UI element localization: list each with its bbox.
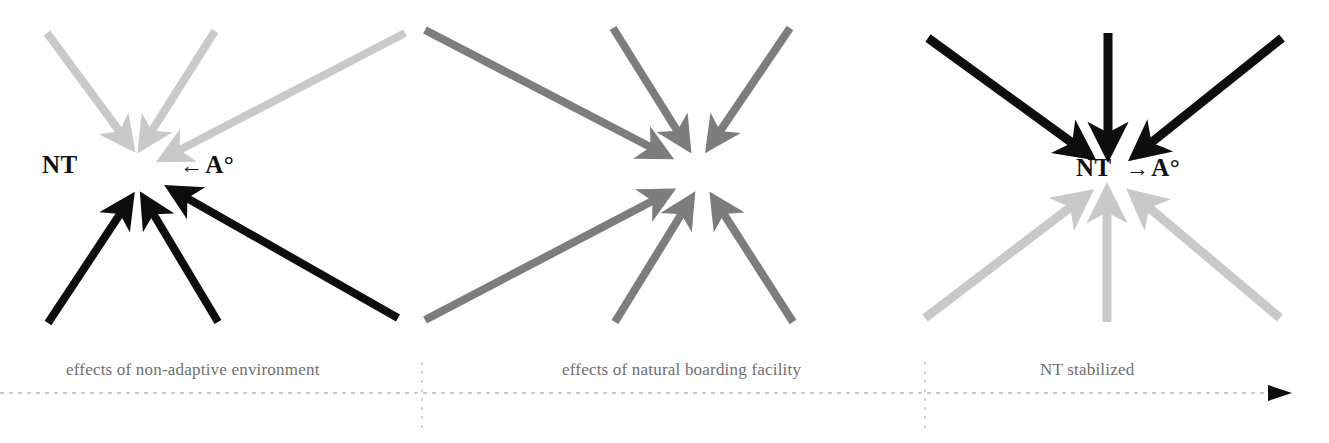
figure-root: NT←A° NT→A° NT⇆A° effects of non-adaptiv… — [0, 0, 1329, 443]
stage-caption-2: effects of natural boarding facility — [562, 360, 801, 380]
stage-caption-3: NT stabilized — [1040, 360, 1134, 380]
timeline-arrowhead-icon — [1268, 385, 1292, 401]
stage-caption-1: effects of non-adaptive environment — [66, 360, 320, 380]
